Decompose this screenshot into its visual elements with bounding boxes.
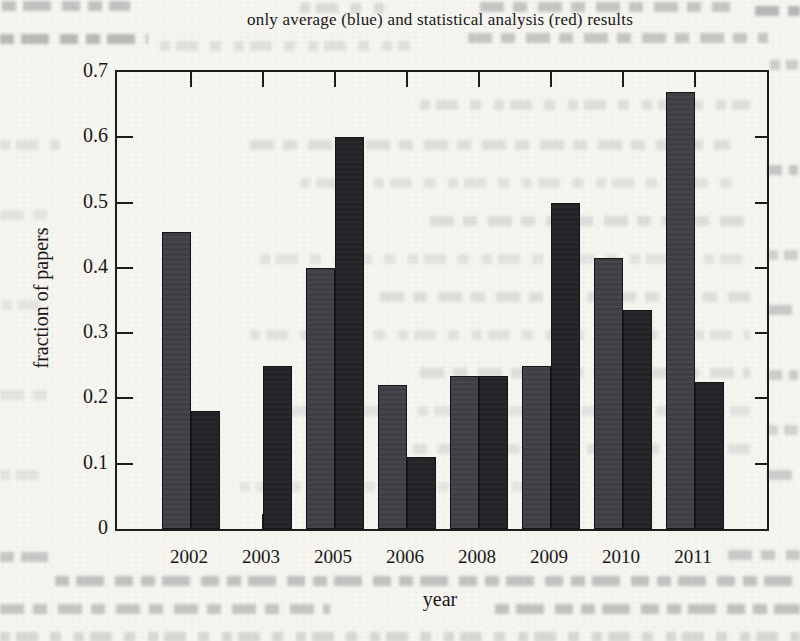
y-tick-mark-right: [755, 397, 767, 399]
bar-2005-blue: [306, 268, 335, 529]
scanned-page: only average (blue) and statistical anal…: [0, 0, 800, 641]
x-tick-mark-top: [694, 72, 696, 87]
y-tick-mark-left: [117, 267, 133, 269]
chart-title: only average (blue) and statistical anal…: [115, 10, 765, 30]
x-tick-label: 2002: [153, 546, 225, 568]
y-tick-mark-left: [117, 332, 133, 334]
y-tick-mark-left: [117, 397, 133, 399]
bar-2005-red: [335, 137, 364, 529]
y-tick-mark-left: [117, 463, 133, 465]
x-tick-mark-top: [406, 72, 408, 87]
bar-2011-red: [695, 382, 724, 529]
y-tick-label: 0: [38, 516, 108, 538]
y-tick-label: 0.4: [38, 255, 108, 277]
y-tick-mark-left: [117, 136, 133, 138]
y-tick-mark-right: [755, 267, 767, 269]
y-tick-mark-right: [755, 136, 767, 138]
plot-area: [115, 70, 769, 531]
bar-chart-figure: only average (blue) and statistical anal…: [0, 0, 800, 641]
x-tick-label: 2006: [369, 546, 441, 568]
x-tick-mark-top: [190, 72, 192, 87]
bar-2010-blue: [594, 258, 623, 529]
y-tick-label: 0.2: [38, 385, 108, 407]
x-tick-label: 2010: [585, 546, 657, 568]
bar-2003-red: [263, 366, 292, 529]
x-tick-label: 2008: [441, 546, 513, 568]
x-tick-mark-top: [622, 72, 624, 87]
bar-2009-red: [551, 203, 580, 529]
x-tick-mark-top: [262, 72, 264, 87]
x-tick-mark-top: [334, 72, 336, 87]
x-tick-label: 2003: [225, 546, 297, 568]
y-tick-mark-left: [117, 202, 133, 204]
x-tick-label: 2009: [513, 546, 585, 568]
y-tick-label: 0.7: [38, 59, 108, 81]
x-tick-label: 2011: [657, 546, 729, 568]
y-tick-label: 0.6: [38, 124, 108, 146]
y-tick-mark-right: [755, 332, 767, 334]
bar-2010-red: [623, 310, 652, 529]
y-axis-label: fraction of papers: [30, 212, 54, 384]
y-tick-label: 0.1: [38, 451, 108, 473]
y-tick-label: 0.5: [38, 190, 108, 212]
x-tick-mark-top: [478, 72, 480, 87]
bar-2002-red: [191, 411, 220, 529]
bar-2008-blue: [450, 376, 479, 529]
x-tick-mark-top: [550, 72, 552, 87]
y-tick-label: 0.3: [38, 320, 108, 342]
bar-2008-red: [479, 376, 508, 529]
y-tick-mark-right: [755, 202, 767, 204]
x-axis-label: year: [115, 588, 765, 611]
bar-2009-blue: [522, 366, 551, 529]
bar-2006-red: [407, 457, 436, 529]
x-tick-label: 2005: [297, 546, 369, 568]
bar-2011-blue: [666, 92, 695, 529]
bar-2006-blue: [378, 385, 407, 529]
bar-2002-blue: [162, 232, 191, 529]
y-tick-mark-right: [755, 463, 767, 465]
